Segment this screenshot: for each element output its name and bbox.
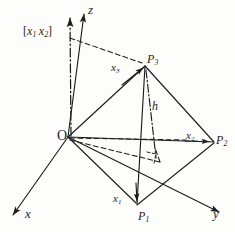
point-p1-label: P1 <box>138 210 149 223</box>
vector-x2-label: x2 <box>186 130 195 143</box>
cross-product-label: [x1 x2] <box>23 25 52 38</box>
p3-subscript: 3 <box>154 58 158 67</box>
altitude-label: h <box>152 100 158 112</box>
vector-x1-label: x1 <box>113 193 122 206</box>
x3-subscript: 3 <box>116 67 120 75</box>
vector-x3-arrow <box>122 68 143 85</box>
edge-o-p1 <box>68 137 136 203</box>
right-angle-marker <box>147 152 156 163</box>
axis-y-line <box>68 137 219 212</box>
p1-subscript: 1 <box>145 215 149 224</box>
point-p2-label: P2 <box>216 134 227 147</box>
axis-x-label: x <box>25 207 31 220</box>
projection-o-to-base-corner <box>70 140 160 162</box>
edge-p3-p1 <box>137 66 145 204</box>
axis-y-label: y <box>213 207 219 220</box>
projection-upper-dashed-to-p3 <box>70 38 142 63</box>
x1-subscript: 1 <box>118 198 122 206</box>
vector-x3-label: x3 <box>111 62 120 75</box>
geometry-figure: x y z O [x1 x2] P3 P1 P2 x3 x1 x2 h <box>0 0 235 232</box>
bracket-close: ] <box>48 24 52 38</box>
p2-subscript: 2 <box>223 139 227 148</box>
origin-label: O <box>57 129 67 143</box>
axis-x-line <box>13 137 68 215</box>
altitude-line <box>146 70 156 158</box>
x2-subscript: 2 <box>191 135 195 143</box>
axis-z-label: z <box>88 3 93 16</box>
cross-vector-a-sub: 1 <box>32 30 36 39</box>
edge-o-p3 <box>68 66 145 137</box>
point-p3-label: P3 <box>147 53 158 66</box>
projection-o-to-foot <box>70 138 186 140</box>
vector-x1-arrow <box>136 183 137 201</box>
